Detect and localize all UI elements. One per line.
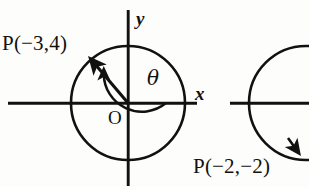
geometry-figure: P(−3,4) y x O θ P(−2,−2) bbox=[0, 0, 309, 187]
y-axis-label: y bbox=[136, 9, 144, 28]
terminal-ray-right bbox=[295, 103, 306, 147]
x-axis-label: x bbox=[195, 84, 205, 103]
angle-theta-label: θ bbox=[147, 68, 159, 88]
terminal-ray-arrow-right bbox=[288, 138, 296, 149]
point-label-left: P(−3,4) bbox=[2, 33, 67, 54]
point-label-right: P(−2,−2) bbox=[193, 156, 270, 177]
origin-label: O bbox=[108, 108, 122, 127]
right-diagram-group bbox=[230, 46, 309, 160]
